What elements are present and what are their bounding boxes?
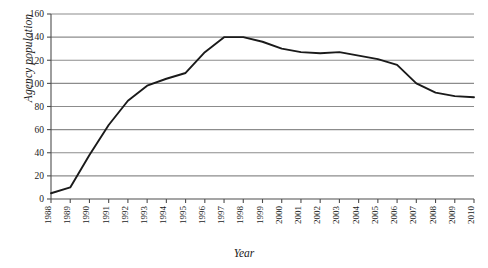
y-tick-label: 20 bbox=[35, 171, 45, 181]
x-tick-label: 2008 bbox=[428, 206, 438, 225]
x-tick-label: 2002 bbox=[312, 206, 322, 224]
y-tick-label: 80 bbox=[35, 102, 45, 112]
x-tick-label: 1989 bbox=[62, 206, 72, 225]
x-axis-title: Year bbox=[0, 247, 488, 259]
x-tick-label: 1996 bbox=[197, 206, 207, 225]
x-tick-label: 1991 bbox=[101, 206, 111, 224]
x-tick-label: 1997 bbox=[216, 206, 226, 225]
x-tick-label: 1994 bbox=[158, 206, 168, 225]
x-tick-label: 2007 bbox=[408, 206, 418, 225]
x-tick-label: 1992 bbox=[120, 206, 130, 224]
y-tick-label: 0 bbox=[39, 194, 44, 204]
line-chart: 020406080100120140160 198819891990199119… bbox=[0, 0, 488, 268]
x-tick-label: 2000 bbox=[274, 206, 284, 225]
x-tick-label: 1993 bbox=[139, 206, 149, 225]
x-tick-label: 2003 bbox=[331, 206, 341, 225]
x-tick-label: 2005 bbox=[370, 206, 380, 225]
x-tick-label: 2004 bbox=[351, 206, 361, 225]
x-tick-label: 1995 bbox=[178, 206, 188, 225]
x-tick-label: 1998 bbox=[235, 205, 245, 224]
x-tick-label: 1988 bbox=[43, 206, 53, 225]
y-tick-label: 40 bbox=[35, 148, 45, 158]
x-tick-label: 2001 bbox=[293, 206, 303, 224]
x-tick-label: 2010 bbox=[466, 206, 476, 225]
chart-plot-area: 020406080100120140160 198819891990199119… bbox=[0, 0, 488, 268]
x-tick-label: 1990 bbox=[81, 206, 91, 225]
x-tick-label: 2006 bbox=[389, 206, 399, 225]
y-tick-label: 60 bbox=[35, 125, 45, 135]
x-tick-label: 2009 bbox=[447, 206, 457, 225]
y-axis-title: Agency population bbox=[22, 0, 34, 138]
x-axis-ticks: 1988198919901991199219931994199519961997… bbox=[43, 199, 476, 224]
gridlines bbox=[51, 14, 474, 176]
x-tick-label: 1999 bbox=[255, 206, 265, 225]
